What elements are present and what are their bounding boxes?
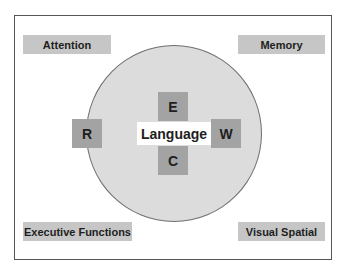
e-box: E: [158, 92, 188, 121]
executive-functions-label: Executive Functions: [23, 222, 132, 241]
c-box: C: [158, 146, 188, 175]
language-center-label: Language: [137, 122, 211, 145]
r-box: R: [72, 119, 102, 148]
w-box: W: [211, 119, 241, 148]
memory-label: Memory: [238, 35, 325, 54]
visual-spatial-label: Visual Spatial: [238, 222, 325, 241]
attention-label: Attention: [23, 35, 111, 54]
